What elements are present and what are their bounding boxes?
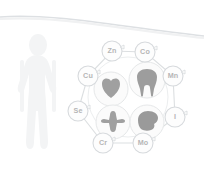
infographic-svg: Zn Co Mn I Mo [0, 0, 204, 172]
element-node-mn[interactable]: Mn [163, 66, 185, 86]
element-label-mn: Mn [168, 71, 179, 80]
human-body-silhouette [18, 34, 57, 149]
element-label-co: Co [140, 47, 150, 56]
infographic-canvas: Zn Co Mn I Mo [0, 0, 204, 172]
top-curve-line-shadow [0, 18, 204, 38]
element-label-se: Se [74, 106, 83, 115]
element-label-zn: Zn [108, 46, 117, 55]
element-label-mo: Mo [138, 138, 149, 147]
element-label-i: I [174, 112, 176, 121]
element-label-cu: Cu [83, 71, 93, 80]
element-node-i[interactable]: I [165, 107, 187, 127]
element-label-cr: Cr [99, 138, 107, 147]
element-node-se[interactable]: Se [68, 101, 90, 121]
element-bubble-group[interactable]: Zn Co Mn I Mo [68, 41, 187, 153]
organ-group [94, 62, 165, 139]
